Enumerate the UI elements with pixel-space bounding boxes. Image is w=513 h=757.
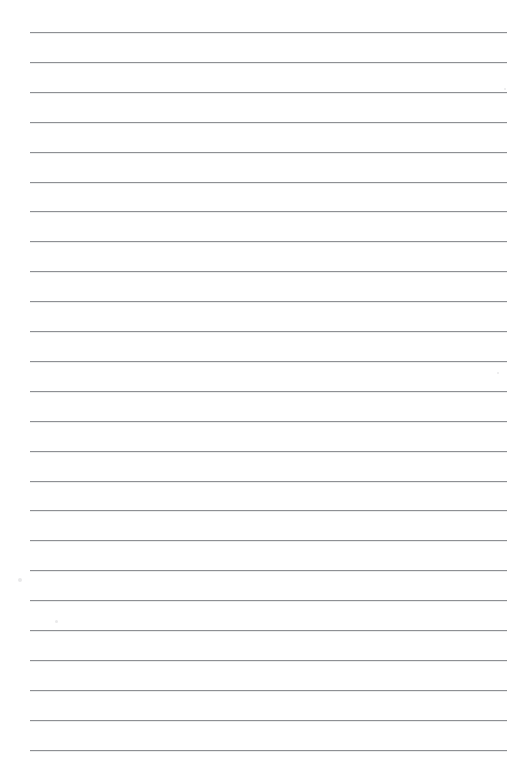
rule-line [30,92,507,93]
rule-line [30,182,507,183]
rule-line [30,361,507,362]
scan-speck [497,372,499,374]
rule-line [30,540,507,541]
rule-line [30,301,507,302]
rule-line [30,510,507,511]
rule-line [30,241,507,242]
rule-line [30,62,507,63]
rule-line [30,32,507,33]
rule-line [30,421,507,422]
scan-speck [55,620,58,623]
rule-line [30,570,507,571]
rule-line [30,690,507,691]
rule-line [30,750,507,751]
rule-line [30,451,507,452]
rule-line [30,630,507,631]
paper-page [0,0,513,757]
rule-line [30,331,507,332]
rule-line [30,271,507,272]
rule-line [30,481,507,482]
rule-line [30,391,507,392]
rule-line [30,720,507,721]
rule-line [30,600,507,601]
rule-line [30,122,507,123]
rule-line [30,152,507,153]
scan-speck [504,88,506,90]
ruled-writing-area[interactable] [0,0,513,757]
scan-speck [18,578,22,582]
rule-line [30,211,507,212]
rule-line [30,660,507,661]
